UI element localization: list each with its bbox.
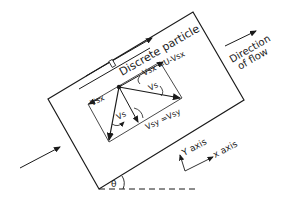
vsx-label: Vsx bbox=[89, 93, 106, 108]
tank-outline bbox=[48, 12, 244, 189]
inflow-arrow bbox=[20, 147, 60, 168]
angle-arc-vsx-prime bbox=[138, 76, 140, 84]
y-axis-label: Y axis bbox=[179, 136, 208, 158]
x-axis-arrow bbox=[185, 157, 213, 171]
vsy-equation-label: Vsy =Vsy bbox=[144, 107, 182, 132]
vs-prime-label: Vs bbox=[147, 80, 160, 92]
settling-tank-diagram: Discrete particle Vsx =U-Vsx Vs Vs Vsx V… bbox=[0, 0, 285, 199]
x-axis-label: x axis bbox=[211, 138, 239, 159]
angle-arc-vs bbox=[112, 122, 124, 126]
theta-arc bbox=[122, 176, 124, 189]
vs-label: Vs bbox=[115, 109, 128, 121]
u-marker bbox=[109, 59, 116, 67]
theta-label: θ bbox=[111, 179, 117, 189]
